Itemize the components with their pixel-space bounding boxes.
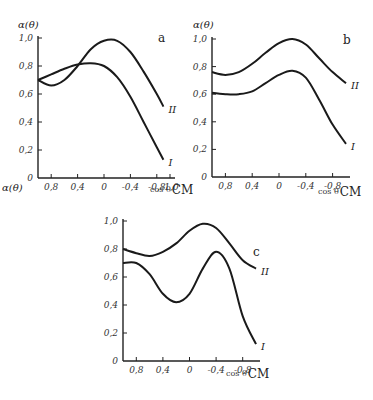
- x-tick-label: 0,4: [156, 365, 171, 375]
- y-tick-label: 0,2: [193, 144, 208, 154]
- panel-label: c: [253, 245, 260, 259]
- panel-label: a: [158, 31, 165, 45]
- x-tick-label: -0,4: [207, 365, 225, 375]
- y-tick-label: 0,2: [19, 145, 34, 155]
- curve-label: I: [167, 157, 173, 168]
- x-tick-label: 0,4: [70, 182, 85, 192]
- y-tick-label: 0,8: [19, 61, 34, 71]
- y-tick-label: 0: [27, 173, 33, 183]
- x-tick-label: 0,8: [44, 182, 59, 192]
- curve-label: II: [260, 266, 270, 277]
- curve-II: [212, 39, 346, 83]
- y-tick-label: 0,4: [19, 117, 34, 127]
- panel-c: 00,20,40,60,81,00,80,40-0,4-0,8cos θCMcI…: [104, 216, 270, 381]
- x-tick-label: 0,4: [245, 181, 260, 191]
- x-tick-label: 0,8: [218, 181, 233, 191]
- y-tick-label: 0: [201, 172, 207, 182]
- curve-label: I: [260, 341, 266, 352]
- x-tick-label: 0: [187, 365, 193, 375]
- y-tick-label: 0,6: [193, 89, 208, 99]
- panel-b: 00,20,40,60,81,00,80,40-0,4-0,8α(θ)cos θ…: [193, 19, 362, 199]
- y-tick-label: 0: [112, 356, 118, 366]
- curve-I: [212, 71, 346, 144]
- x-tick-label: -0,4: [122, 182, 140, 192]
- x-axis-label: cos θCM: [150, 183, 193, 197]
- panel-label: b: [343, 33, 351, 47]
- curve-II: [38, 40, 163, 107]
- x-tick-label: 0: [101, 182, 107, 192]
- y-tick-label: 0,8: [193, 62, 208, 72]
- y-tick-label: 0,2: [104, 328, 119, 338]
- curve-II: [123, 224, 256, 269]
- y-tick-label: 1,0: [19, 33, 34, 43]
- curve-I: [38, 63, 163, 160]
- x-axis-label: cos θCM: [318, 185, 361, 199]
- x-tick-label: -0,4: [297, 181, 315, 191]
- y-tick-label: 0,8: [104, 244, 119, 254]
- y-tick-label: 0,6: [19, 89, 34, 99]
- y-axis-label: α(θ): [18, 19, 39, 30]
- curve-label: I: [350, 141, 356, 152]
- x-tick-label: 0,8: [129, 365, 144, 375]
- curve-I: [123, 252, 256, 344]
- y-tick-label: 1,0: [193, 34, 208, 44]
- y-tick-label: 0,4: [104, 300, 119, 310]
- panel-a: 00,20,40,60,81,00,80,40-0,4-0,8-1,0α(θ)α…: [2, 19, 193, 197]
- curve-label: II: [350, 80, 360, 91]
- y-tick-label: 0,4: [193, 117, 208, 127]
- curve-label: II: [167, 104, 177, 115]
- y-axis-label: α(θ): [193, 19, 214, 30]
- chart-figure: 00,20,40,60,81,00,80,40-0,4-0,8-1,0α(θ)α…: [0, 0, 373, 400]
- y-tick-label: 0,6: [104, 272, 119, 282]
- x-axis-label: cos θCM: [226, 367, 269, 381]
- y-tick-label: 1,0: [104, 216, 119, 226]
- y-axis-label-lower: α(θ): [2, 182, 23, 193]
- x-tick-label: 0: [276, 181, 282, 191]
